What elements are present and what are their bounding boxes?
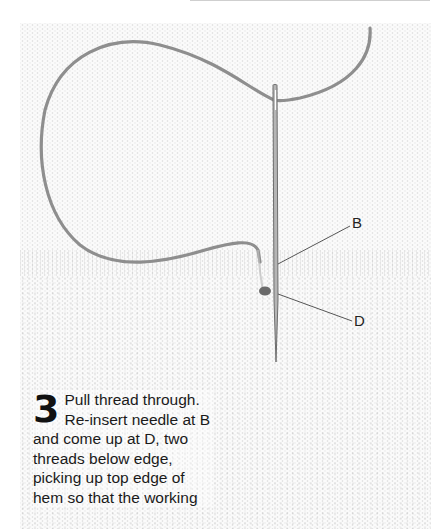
leader-line-b	[278, 226, 350, 264]
instruction-text: Pull thread through. Re-insert needle at…	[33, 391, 210, 506]
step-number: 3	[33, 392, 59, 426]
label-b: B	[352, 214, 362, 231]
thread	[41, 28, 370, 262]
instruction-caption: 3 Pull thread through. Re-insert needle …	[33, 390, 213, 507]
needle	[273, 85, 278, 363]
leader-line-d	[278, 294, 352, 321]
label-d: D	[354, 312, 365, 329]
thread-knot	[259, 287, 271, 296]
